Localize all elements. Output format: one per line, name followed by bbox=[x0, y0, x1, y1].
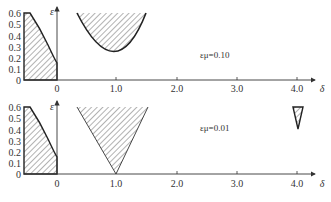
y-tick-label: 0.2 bbox=[9, 147, 22, 158]
top-panel: 0 0.1 0.2 0.3 0.4 0.5 0.6 ε 0 1.0 2.0 3 bbox=[9, 6, 325, 94]
bottom-panel: 0 0.1 0.2 0.3 0.4 0.5 0.6 ε 0 1.0 2.0 3.… bbox=[9, 101, 325, 189]
x-tick-label: 0 bbox=[55, 83, 60, 94]
bottom-annotation: εμ=0.01 bbox=[200, 123, 229, 133]
x-tick-label: 3.0 bbox=[231, 178, 244, 189]
bottom-y-axis-label: ε bbox=[50, 101, 54, 112]
x-tick-label: 3.0 bbox=[231, 83, 244, 94]
y-tick-label: 0.1 bbox=[9, 158, 22, 169]
top-y-tick-labels: 0 0.1 0.2 0.3 0.4 0.5 0.6 bbox=[9, 8, 22, 86]
bottom-region-small-v bbox=[293, 107, 303, 129]
y-tick-label: 0.5 bbox=[9, 113, 22, 124]
y-tick-label: 0.3 bbox=[9, 42, 22, 53]
x-tick-label: 2.0 bbox=[171, 178, 184, 189]
y-tick-label: 0 bbox=[16, 169, 21, 180]
top-annotation: εμ=0.10 bbox=[200, 50, 230, 60]
x-tick-label: 2.0 bbox=[171, 83, 184, 94]
bottom-x-axis-label: δ bbox=[320, 178, 325, 189]
bottom-region-left bbox=[24, 107, 57, 174]
x-tick-label: 1.0 bbox=[110, 83, 123, 94]
x-tick-label: 4.0 bbox=[291, 178, 304, 189]
y-tick-label: 0 bbox=[16, 75, 21, 86]
y-tick-label: 0.4 bbox=[9, 125, 22, 136]
top-region-left bbox=[24, 13, 57, 80]
y-tick-label: 0.1 bbox=[9, 64, 22, 75]
x-tick-label: 0 bbox=[55, 178, 60, 189]
y-tick-label: 0.6 bbox=[9, 8, 22, 19]
top-x-axis-label: δ bbox=[320, 83, 325, 94]
x-tick-label: 4.0 bbox=[291, 83, 304, 94]
top-y-axis-label: ε bbox=[50, 6, 54, 17]
stability-chart-figure: 0 0.1 0.2 0.3 0.4 0.5 0.6 ε 0 1.0 2.0 3 bbox=[0, 0, 331, 202]
bottom-y-tick-labels: 0 0.1 0.2 0.3 0.4 0.5 0.6 bbox=[9, 102, 22, 180]
y-tick-label: 0.2 bbox=[9, 53, 22, 64]
top-x-tick-labels: 0 1.0 2.0 3.0 4.0 bbox=[55, 83, 304, 94]
y-tick-label: 0.5 bbox=[9, 19, 22, 30]
y-tick-label: 0.3 bbox=[9, 136, 22, 147]
y-tick-label: 0.6 bbox=[9, 102, 22, 113]
y-tick-label: 0.4 bbox=[9, 31, 22, 42]
bottom-region-v bbox=[77, 107, 148, 174]
bottom-x-tick-labels: 0 1.0 2.0 3.0 4.0 bbox=[55, 178, 304, 189]
x-tick-label: 1.0 bbox=[110, 178, 123, 189]
